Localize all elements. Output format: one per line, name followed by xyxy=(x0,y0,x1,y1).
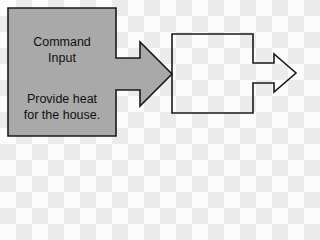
process-block xyxy=(172,34,296,113)
input-block-description: Provide heat for the house. xyxy=(8,91,116,123)
input-title-line1: Command xyxy=(8,34,116,50)
input-title-line2: Input xyxy=(8,50,116,66)
input-block-title: Command Input xyxy=(8,34,116,66)
input-desc-line1: Provide heat xyxy=(8,91,116,107)
input-desc-line2: for the house. xyxy=(8,107,116,123)
